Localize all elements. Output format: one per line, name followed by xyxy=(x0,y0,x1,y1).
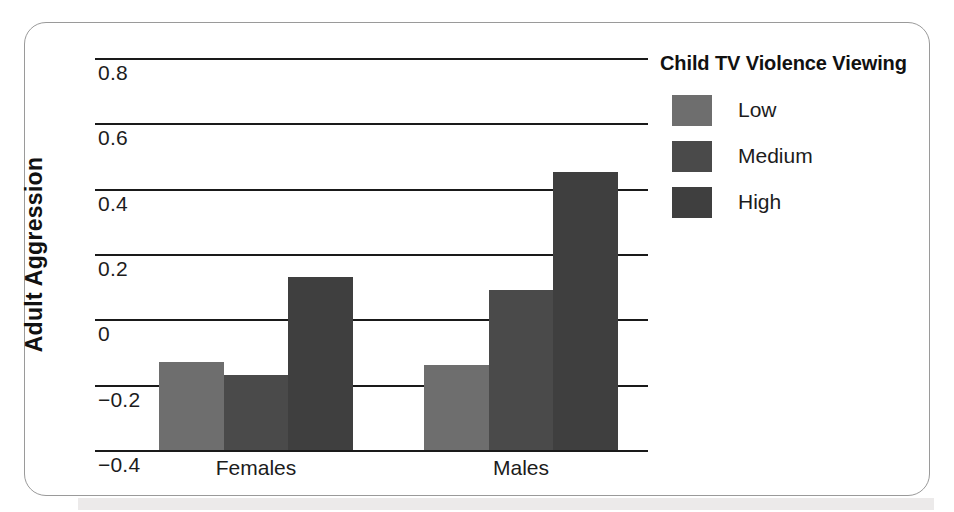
gridline xyxy=(95,58,648,60)
gridline xyxy=(95,123,648,125)
bar-males-medium xyxy=(489,290,554,450)
legend-label: Low xyxy=(738,98,777,122)
gridline xyxy=(95,450,648,452)
y-axis-title-text: Adult Aggression xyxy=(21,120,48,390)
y-axis-title: Adult Aggression xyxy=(18,118,50,388)
bar-males-high xyxy=(553,172,618,450)
bar-females-low xyxy=(159,362,224,450)
legend-swatch-high xyxy=(672,187,712,218)
x-axis-category-label: Females xyxy=(159,456,353,480)
legend-items: LowMediumHigh xyxy=(660,87,922,225)
bar-females-medium xyxy=(224,375,289,450)
legend-title: Child TV Violence Viewing xyxy=(660,52,922,75)
figure-shadow-strip xyxy=(78,498,934,510)
legend-label: High xyxy=(738,190,781,214)
legend-swatch-low xyxy=(672,95,712,126)
legend-item-high: High xyxy=(660,179,922,225)
plot-area xyxy=(95,58,648,450)
legend-item-low: Low xyxy=(660,87,922,133)
legend-swatch-medium xyxy=(672,141,712,172)
legend-label: Medium xyxy=(738,144,813,168)
legend-item-medium: Medium xyxy=(660,133,922,179)
x-axis-category-label: Males xyxy=(424,456,618,480)
bar-females-high xyxy=(288,277,353,450)
y-axis-tick-label: −0.4 xyxy=(98,453,140,477)
bar-males-low xyxy=(424,365,489,450)
legend: Child TV Violence Viewing LowMediumHigh xyxy=(660,52,922,225)
